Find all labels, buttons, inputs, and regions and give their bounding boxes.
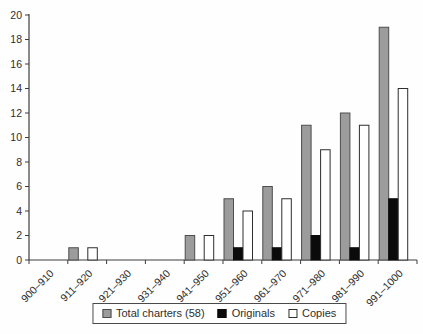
y-tick-label: 16 — [10, 58, 22, 70]
legend: Total charters (58) Originals Copies — [92, 303, 346, 324]
y-tick-label: 20 — [10, 9, 22, 21]
bar-originals-961–970 — [272, 248, 282, 260]
bar-copies-951–960 — [243, 211, 253, 260]
x-category-label: 961–970 — [251, 267, 289, 305]
total-charters-swatch-icon — [102, 309, 111, 318]
y-tick-label: 10 — [10, 131, 22, 143]
legend-label-originals: Originals — [232, 307, 275, 319]
bar-total-charters-971–980 — [302, 125, 312, 260]
y-tick-label: 4 — [16, 205, 22, 217]
x-category-label: 971–980 — [290, 267, 328, 305]
bar-total-charters-911–920 — [69, 248, 79, 260]
x-category-label: 900–910 — [18, 267, 56, 305]
y-tick-label: 0 — [16, 254, 22, 266]
bar-total-charters-961–970 — [263, 187, 273, 261]
x-category-label: 931–940 — [135, 267, 173, 305]
y-tick-label: 2 — [16, 229, 22, 241]
originals-swatch-icon — [218, 309, 227, 318]
x-category-label: 921–930 — [96, 267, 134, 305]
bar-copies-961–970 — [282, 199, 292, 260]
x-category-label: 951–960 — [212, 267, 250, 305]
y-tick-label: 14 — [10, 82, 22, 94]
y-tick-label: 8 — [16, 156, 22, 168]
bar-chart-figure: 02468101214161820900–910911–920921–93093… — [0, 0, 423, 334]
legend-label-copies: Copies — [302, 307, 336, 319]
bar-copies-971–980 — [321, 150, 331, 260]
y-tick-label: 6 — [16, 180, 22, 192]
x-category-label: 991–1000 — [363, 267, 405, 309]
bar-originals-981–990 — [350, 248, 360, 260]
legend-item-copies: Copies — [288, 307, 336, 319]
legend-item-originals: Originals — [218, 307, 275, 319]
bar-originals-951–960 — [234, 248, 244, 260]
bar-copies-941–950 — [204, 236, 214, 261]
bar-copies-991–1000 — [398, 89, 408, 261]
bar-total-charters-981–990 — [340, 113, 350, 260]
bar-copies-911–920 — [88, 248, 98, 260]
bar-originals-991–1000 — [389, 199, 399, 260]
y-tick-label: 12 — [10, 107, 22, 119]
y-tick-label: 18 — [10, 33, 22, 45]
x-category-label: 941–950 — [174, 267, 212, 305]
bar-total-charters-941–950 — [185, 236, 195, 261]
bar-originals-971–980 — [311, 236, 321, 261]
bar-total-charters-991–1000 — [379, 27, 389, 260]
legend-label-total-charters: Total charters (58) — [116, 307, 205, 319]
bar-total-charters-951–960 — [224, 199, 234, 260]
bar-copies-981–990 — [359, 125, 369, 260]
legend-item-total-charters: Total charters (58) — [102, 307, 205, 319]
x-category-label: 911–920 — [58, 267, 95, 304]
copies-swatch-icon — [288, 309, 297, 318]
x-category-label: 981–990 — [329, 267, 367, 305]
chart-canvas: 02468101214161820900–910911–920921–93093… — [0, 0, 423, 334]
